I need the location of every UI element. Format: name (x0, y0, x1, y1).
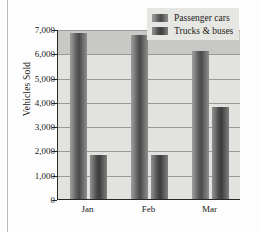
x-axis-tick-label-jan: Jan (58, 204, 118, 214)
y-axis-tick-mark (52, 200, 57, 201)
chart-legend: Passenger cars Trucks & buses (147, 8, 239, 40)
legend-entry-trucks-buses: Trucks & buses (152, 24, 233, 37)
bar-jan-trucks-buses (90, 155, 107, 199)
x-axis-tick-label-feb: Feb (119, 204, 179, 214)
page-canvas: Vehicles Sold 01,0002,0003,0004,0005,000… (0, 0, 260, 232)
x-axis-tick-label-mar: Mar (180, 204, 240, 214)
y-axis-tick-label: 5,000 (9, 74, 55, 83)
legend-entry-passenger-cars: Passenger cars (152, 11, 233, 24)
y-axis-tick-label: 1,000 (9, 171, 55, 180)
bar-mar-passenger-cars (192, 51, 209, 199)
y-axis-tick-label: 7,000 (9, 26, 55, 35)
y-axis-tick-label: 0 (9, 196, 55, 205)
y-axis-tick-label: 3,000 (9, 123, 55, 132)
bar-jan-passenger-cars (70, 33, 87, 199)
bar-feb-passenger-cars (131, 35, 148, 199)
y-axis-tick-label: 4,000 (9, 98, 55, 107)
vehicles-sold-bar-chart: Vehicles Sold 01,0002,0003,0004,0005,000… (0, 0, 260, 232)
bar-mar-trucks-buses (212, 107, 229, 199)
y-axis-tick-label: 2,000 (9, 147, 55, 156)
plot-area (57, 30, 240, 200)
legend-swatch-icon-trucks-buses (152, 27, 168, 35)
legend-label-passenger-cars: Passenger cars (174, 13, 230, 23)
y-axis-tick-label: 6,000 (9, 50, 55, 59)
legend-swatch-icon-passenger-cars (152, 14, 168, 22)
bar-feb-trucks-buses (151, 155, 168, 199)
legend-label-trucks-buses: Trucks & buses (174, 26, 233, 36)
